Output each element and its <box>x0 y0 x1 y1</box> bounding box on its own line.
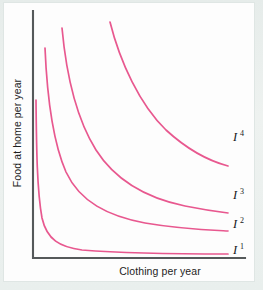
curve-label-i1: I <box>232 243 238 257</box>
curve-label-i3: I <box>232 188 238 202</box>
curve-label-i4: I <box>232 130 238 144</box>
x-axis-label: Clothing per year <box>119 265 201 277</box>
curve-i3 <box>62 28 228 213</box>
curve-label-i2-superscript: 2 <box>240 216 244 225</box>
curve-i4 <box>110 22 228 166</box>
curve-label-i3-superscript: 3 <box>240 187 244 196</box>
curve-label-i1-superscript: 1 <box>240 242 244 251</box>
figure-screenshot: I 1 I 2 I 3 I 4 Food at home per year Cl… <box>0 0 263 290</box>
curve-label-i4-superscript: 4 <box>240 129 244 138</box>
curve-label-i2: I <box>232 217 238 231</box>
curve-i1 <box>36 100 228 254</box>
y-axis-label: Food at home per year <box>11 78 23 187</box>
curve-i2 <box>45 48 228 231</box>
indifference-curve-chart: I 1 I 2 I 3 I 4 Food at home per year Cl… <box>0 0 263 290</box>
